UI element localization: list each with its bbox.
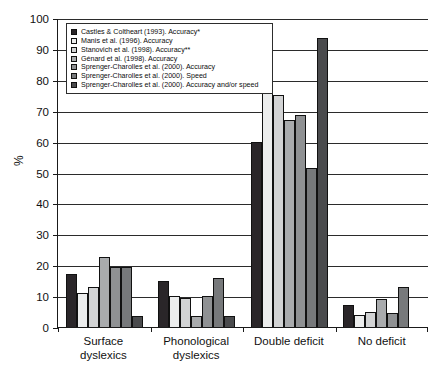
y-tick-label: 80	[36, 75, 49, 87]
x-tick-mark	[243, 327, 244, 332]
x-tick-mark	[336, 327, 337, 332]
bar	[121, 267, 132, 327]
x-axis-label: Phonologicaldyslexics	[150, 334, 243, 362]
bar	[387, 313, 398, 327]
x-axis-label: No deficit	[335, 334, 428, 362]
x-tick-mark	[151, 327, 152, 332]
legend-item: Sprenger-Charolles et al. (2000). Speed	[71, 72, 267, 80]
bar-chart: % 0102030405060708090100 Surfacedyslexic…	[0, 0, 443, 379]
legend-item: Manis et al. (1996). Accuracy	[71, 37, 267, 45]
legend: Castles & Coltheart (1993). Accuracy*Man…	[66, 23, 273, 94]
bar	[110, 267, 121, 327]
x-axis-label: Double deficit	[243, 334, 336, 362]
bar	[132, 316, 143, 327]
bar	[398, 287, 409, 327]
y-tick-label: 100	[30, 13, 49, 25]
y-tick-label: 60	[36, 137, 49, 149]
legend-swatch-icon	[71, 47, 77, 53]
legend-label: Sprenger-Charolles et al. (2000). Speed	[81, 72, 207, 80]
legend-label: Castles & Coltheart (1993). Accuracy*	[81, 28, 200, 36]
x-axis-label-line: dyslexics	[57, 348, 150, 362]
bar	[88, 287, 99, 327]
legend-label: Génard et al. (1998). Accuracy	[81, 55, 177, 63]
x-axis-label: Surfacedyslexics	[57, 334, 150, 362]
bar	[202, 296, 213, 327]
y-tick-label: 0	[43, 322, 49, 334]
y-tick-label: 40	[36, 198, 49, 210]
bar	[191, 316, 202, 327]
bar	[158, 281, 169, 327]
bar	[354, 315, 365, 327]
bar-group	[336, 19, 429, 327]
bar	[213, 278, 224, 327]
y-tick-label: 50	[36, 168, 49, 180]
legend-swatch-icon	[71, 73, 77, 79]
legend-swatch-icon	[71, 64, 77, 70]
bar	[262, 92, 273, 327]
x-axis-label-line: No deficit	[335, 334, 428, 348]
legend-swatch-icon	[71, 56, 77, 62]
legend-item: Sprenger-Charolles et al. (2000). Accura…	[71, 81, 267, 89]
x-axis-label-line: dyslexics	[150, 348, 243, 362]
bar	[295, 115, 306, 327]
x-axis-labels: SurfacedyslexicsPhonologicaldyslexicsDou…	[57, 334, 428, 362]
y-tick-label: 70	[36, 106, 49, 118]
bar	[306, 168, 317, 327]
bar	[224, 316, 235, 327]
bar	[66, 274, 77, 327]
legend-label: Sprenger-Charolles et al. (2000). Accura…	[81, 81, 258, 89]
y-tick-label: 10	[36, 291, 49, 303]
x-axis-label-line: Phonological	[150, 334, 243, 348]
legend-item: Sprenger-Charolles et al. (2000). Accura…	[71, 63, 267, 71]
x-tick-mark	[427, 327, 428, 332]
bar	[343, 305, 354, 327]
legend-item: Castles & Coltheart (1993). Accuracy*	[71, 28, 267, 36]
legend-label: Stanovich et al. (1998). Accuracy**	[81, 46, 190, 54]
legend-swatch-icon	[71, 29, 77, 35]
y-tick-label: 30	[36, 229, 49, 241]
bar	[284, 120, 295, 327]
bar	[99, 257, 110, 327]
bar	[317, 38, 328, 327]
bar	[365, 312, 376, 327]
y-tick-label: 20	[36, 260, 49, 272]
x-axis-label-line: Surface	[57, 334, 150, 348]
bar	[273, 95, 284, 327]
y-axis-title: %	[12, 155, 26, 166]
legend-swatch-icon	[71, 82, 77, 88]
bar	[77, 293, 88, 327]
legend-label: Sprenger-Charolles et al. (2000). Accura…	[81, 63, 215, 71]
legend-label: Manis et al. (1996). Accuracy	[81, 37, 172, 45]
legend-item: Génard et al. (1998). Accuracy	[71, 54, 267, 62]
legend-item: Stanovich et al. (1998). Accuracy**	[71, 46, 267, 54]
bar	[251, 142, 262, 327]
legend-swatch-icon	[71, 38, 77, 44]
y-tick-label: 90	[36, 44, 49, 56]
x-axis-label-line: Double deficit	[243, 334, 336, 348]
bar	[376, 299, 387, 327]
bar	[180, 298, 191, 327]
legend-rows: Castles & Coltheart (1993). Accuracy*Man…	[71, 28, 267, 89]
x-tick-mark	[58, 327, 59, 332]
bar	[169, 296, 180, 327]
